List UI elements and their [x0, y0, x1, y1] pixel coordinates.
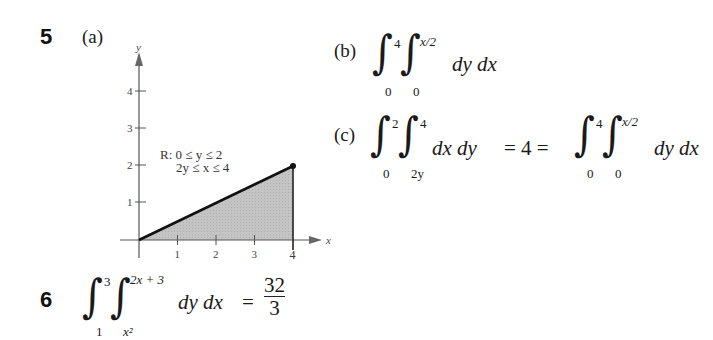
part-c-label: (c)	[334, 124, 355, 146]
lower-limit: 0	[385, 84, 392, 100]
integral-sign-icon: ∫	[370, 111, 391, 157]
lower-limit: 1	[96, 324, 103, 340]
y-tick-label: 3	[127, 122, 133, 134]
x-axis-label: x	[325, 234, 331, 246]
equals-sign: =	[242, 290, 254, 315]
denominator: 3	[269, 297, 280, 319]
region-figure: 4 3 2 1 1 2 3 4 y x R: 0 ≤ y ≤ 2 2y ≤ x …	[100, 40, 340, 265]
y-axis-arrow-icon	[135, 52, 143, 66]
integral-sign-icon: ∫	[82, 273, 103, 319]
x-tick-label: 2	[213, 248, 219, 260]
problem-number-6: 6	[40, 287, 52, 313]
part-b-integral: ∫ 4 0 ∫ x/2 0 dy dx	[372, 26, 572, 96]
integral-sign-icon: ∫	[574, 111, 595, 157]
upper-limit: x/2	[420, 34, 436, 50]
integrand: dx dy	[432, 136, 477, 161]
result-fraction: 32 3	[264, 274, 285, 319]
y-tick-label: 4	[127, 85, 133, 97]
corner-point	[290, 163, 296, 169]
equals-value: = 4 =	[504, 136, 549, 161]
lower-limit: 0	[615, 166, 622, 182]
problem-6-equation: ∫ 3 1 ∫ 2x + 3 x² dy dx = 32 3	[82, 272, 322, 340]
lower-limit: 0	[413, 84, 420, 100]
problem-number-5: 5	[40, 24, 52, 50]
integral-sign-icon: ∫	[372, 29, 393, 75]
y-tick-label: 1	[127, 196, 133, 208]
part-c-equation: ∫ 2 0 ∫ 4 2y dx dy = 4 = ∫ 4 0 ∫ x/2 0 d…	[370, 108, 710, 178]
y-tick-label: 2	[127, 159, 133, 171]
lower-limit: x²	[123, 324, 133, 340]
upper-limit: x/2	[622, 114, 638, 130]
y-ticks	[135, 91, 146, 202]
x-axis-arrow-icon	[309, 236, 322, 244]
lower-limit: 0	[383, 166, 390, 182]
integrand: dy dx	[654, 136, 699, 161]
numerator: 32	[264, 274, 285, 296]
lower-limit: 0	[587, 166, 594, 182]
x-tick-label: 4	[290, 248, 296, 262]
region-label-line2: 2y ≤ x ≤ 4	[176, 160, 230, 175]
part-b-label: (b)	[334, 40, 356, 62]
y-axis-label: y	[135, 41, 141, 53]
x-tick-label: 3	[252, 248, 258, 260]
integral-sign-icon: ∫	[110, 273, 131, 319]
upper-limit: 2x + 3	[130, 272, 164, 288]
integrand: dy dx	[452, 52, 497, 77]
integrand: dy dx	[178, 290, 223, 315]
x-tick-label: 1	[175, 248, 181, 260]
upper-limit: 4	[420, 116, 427, 132]
integral-sign-icon: ∫	[398, 111, 419, 157]
integral-sign-icon: ∫	[602, 111, 623, 157]
integral-sign-icon: ∫	[400, 29, 421, 75]
lower-limit: 2y	[411, 166, 424, 182]
